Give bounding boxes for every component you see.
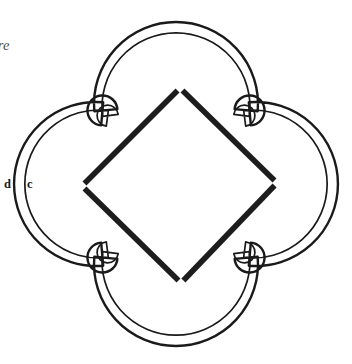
square-side-top-to-right [183, 90, 275, 180]
quatrefoil-inner-contour [25, 33, 327, 335]
quatrefoil-outer-contour [14, 22, 338, 346]
centre-annotation-label: ntre [0, 38, 10, 53]
point-label-d: d [4, 178, 11, 191]
quatrefoil-outline-group [14, 22, 338, 346]
point-label-c: c [27, 178, 33, 191]
figure-canvas: d c ntre [0, 0, 352, 364]
quatrefoil-figure [0, 0, 352, 364]
square-side-left-to-top [84, 90, 177, 183]
